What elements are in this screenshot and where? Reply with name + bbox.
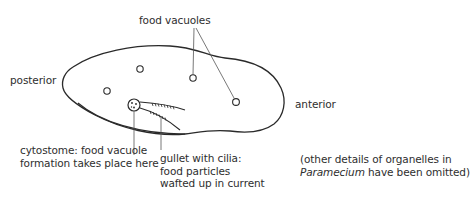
omission-note-line-2-rest: have been omitted) [365,166,470,178]
food-vacuole [233,99,240,106]
omission-note-line-1: (other details of organelles in [300,153,470,166]
omission-note-line-2: Paramecium have been omitted) [300,166,470,179]
omission-note: (other details of organelles in Parameci… [300,153,470,178]
cytostome [128,99,140,111]
food-vacuole [137,66,143,72]
anterior-label: anterior [295,98,336,111]
gullet-label: gullet with cilia: food particles wafted… [160,152,265,190]
cell-body-outline [62,46,284,135]
gullet-label-line-3: wafted up in current [160,177,265,190]
leader-line-food-vacuole-2 [196,28,234,98]
food-vacuole [104,88,110,94]
cytostome-label-line-1: cytostome: food vacuole [20,144,159,157]
gullet-label-line-1: gullet with cilia: [160,152,265,165]
food-vacuoles-label: food vacuoles [139,14,211,27]
gullet [140,102,185,130]
leader-line-food-vacuole-1 [193,28,194,75]
gullet-label-line-2: food particles [160,165,265,178]
food-vacuole [190,75,196,81]
posterior-label: posterior [10,74,56,87]
species-name: Paramecium [300,166,365,178]
cytostome-label: cytostome: food vacuole formation takes … [20,144,159,169]
cytostome-label-line-2: formation takes place here [20,157,159,170]
